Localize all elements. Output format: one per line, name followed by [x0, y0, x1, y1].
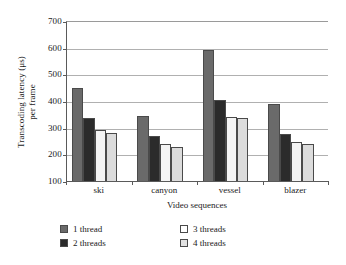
- y-tick-label: 400: [36, 97, 62, 106]
- legend-column-left: 1 thread2 threads: [60, 224, 180, 248]
- legend-swatch-icon: [180, 225, 188, 233]
- bar: [268, 104, 279, 181]
- bar: [149, 136, 160, 181]
- legend-label: 1 thread: [73, 224, 102, 234]
- legend-item[interactable]: 2 threads: [60, 238, 180, 248]
- bar: [203, 50, 214, 181]
- legend-item[interactable]: 1 thread: [60, 224, 180, 234]
- x-axis-title: Video sequences: [66, 200, 328, 211]
- y-tick-label: 300: [36, 123, 62, 132]
- x-tick-mark: [66, 181, 67, 185]
- legend-label: 2 threads: [73, 238, 106, 248]
- x-tick-label: blazer: [263, 185, 329, 196]
- legend-swatch-icon: [180, 239, 188, 247]
- bar: [106, 133, 117, 181]
- transcoding-latency-bar-chart: Transcoding latency (μs) per frame 70060…: [0, 0, 346, 265]
- bar-group-bars: [263, 21, 329, 181]
- bar: [291, 142, 302, 181]
- x-tick-mark: [263, 181, 264, 185]
- x-tick-label: vessel: [197, 185, 263, 196]
- bar-group: [66, 21, 132, 181]
- bar-group: [132, 21, 198, 181]
- chart-legend: 1 thread2 threads 3 threads4 threads: [60, 224, 300, 248]
- y-tick-label: 100: [36, 177, 62, 186]
- y-tick-label: 200: [36, 150, 62, 159]
- y-tick-label: 600: [36, 43, 62, 52]
- bar: [72, 88, 83, 181]
- bar: [237, 118, 248, 181]
- legend-column-right: 3 threads4 threads: [180, 224, 300, 248]
- bar: [171, 147, 182, 181]
- bar: [83, 118, 94, 181]
- bar: [302, 144, 313, 181]
- bar: [137, 116, 148, 181]
- y-axis-tick-labels: 700600500400300200100: [36, 0, 62, 265]
- bar-group-bars: [132, 21, 198, 181]
- x-tick-label: canyon: [132, 185, 198, 196]
- bar-group-bars: [66, 21, 132, 181]
- x-tick-label: ski: [66, 185, 132, 196]
- x-axis-tick-labels: skicanyonvesselblazer: [66, 185, 328, 196]
- legend-item[interactable]: 3 threads: [180, 224, 300, 234]
- y-tick-label: 700: [36, 17, 62, 26]
- bar: [280, 134, 291, 181]
- bar: [226, 117, 237, 181]
- legend-item[interactable]: 4 threads: [180, 238, 300, 248]
- y-tick-label: 500: [36, 70, 62, 79]
- bar-group: [197, 21, 263, 181]
- legend-swatch-icon: [60, 239, 68, 247]
- x-tick-mark: [197, 181, 198, 185]
- bar: [95, 130, 106, 181]
- x-tick-mark: [328, 181, 329, 185]
- bar: [160, 144, 171, 181]
- y-axis-title-line-1: Transcoding latency (μs): [16, 56, 27, 148]
- bar-group: [263, 21, 329, 181]
- bar-group-bars: [197, 21, 263, 181]
- bar-groups: [66, 21, 328, 181]
- legend-label: 3 threads: [193, 224, 226, 234]
- legend-swatch-icon: [60, 225, 68, 233]
- bar: [214, 100, 225, 181]
- x-tick-mark: [132, 181, 133, 185]
- legend-label: 4 threads: [193, 238, 226, 248]
